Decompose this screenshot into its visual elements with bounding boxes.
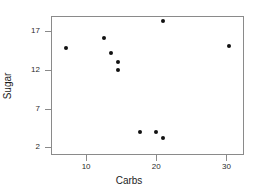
data-point [161, 19, 165, 23]
x-axis-tick-label: 20 [136, 163, 176, 171]
y-axis-tick-mark [45, 147, 51, 148]
data-point [116, 68, 120, 72]
y-axis-tick-label: 17 [0, 27, 40, 35]
data-point [102, 36, 106, 40]
plot-area [51, 16, 244, 155]
x-axis-tick-label: 30 [206, 163, 246, 171]
scatter-chart: 271217 102030 Sugar Carbs [0, 0, 258, 194]
data-point [116, 60, 120, 64]
x-axis-tick-label: 10 [66, 163, 106, 171]
y-axis-tick-label: 7 [0, 105, 40, 113]
data-point [109, 51, 113, 55]
y-axis-title: Sugar [3, 73, 13, 100]
x-axis-tick-mark [86, 155, 87, 161]
y-axis-tick-label: 2 [0, 143, 40, 151]
y-axis-tick-mark [45, 109, 51, 110]
x-axis-tick-mark [156, 155, 157, 161]
x-axis-tick-mark [226, 155, 227, 161]
data-point [64, 46, 68, 50]
y-axis-tick-mark [45, 70, 51, 71]
x-axis-title: Carbs [0, 176, 258, 186]
data-point [227, 44, 231, 48]
y-axis-tick-mark [45, 31, 51, 32]
data-point [154, 130, 158, 134]
data-point [138, 130, 142, 134]
data-point [161, 136, 165, 140]
